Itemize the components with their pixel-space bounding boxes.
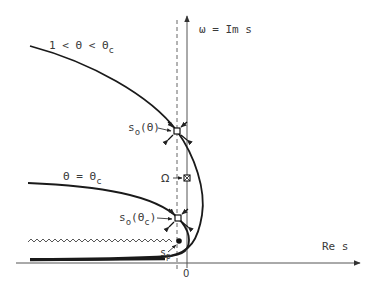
saddle-upper-label: so(Θ)	[128, 121, 160, 137]
saddle-critical-label: so(Θc)	[119, 211, 156, 227]
s-plane-diagram: ω = Im s Re s 0 1 < Θ < Θc Θ = Θc so(Θ) …	[0, 0, 375, 285]
lower-contour-segment	[30, 259, 165, 260]
vertical-axis-label: ω = Im s	[199, 23, 252, 36]
curve-critical-label: Θ = Θc	[63, 170, 102, 186]
horizontal-axis-label: Re s	[322, 240, 349, 253]
omega-label: Ω	[161, 172, 169, 185]
origin-label: 0	[183, 268, 189, 279]
omega-marker	[173, 175, 190, 181]
curve-upper-label: 1 < Θ < Θc	[49, 39, 114, 55]
branch-cut	[28, 239, 172, 242]
